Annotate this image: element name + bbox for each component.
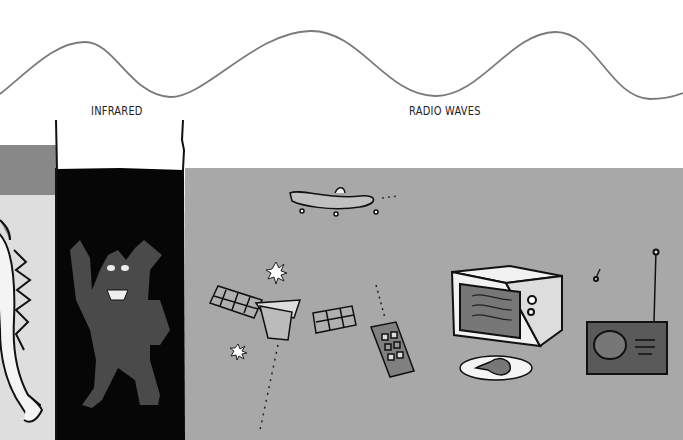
wave-line bbox=[0, 31, 683, 99]
microwave-icon bbox=[452, 266, 562, 346]
visible-band-top bbox=[0, 145, 56, 195]
spectrum-illustration bbox=[0, 0, 683, 440]
chicken-plate-icon bbox=[460, 356, 532, 380]
